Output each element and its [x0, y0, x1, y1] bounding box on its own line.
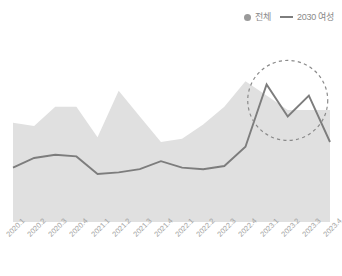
- chart-container: 전체 2030 여성 2020.12020.22020.32020.42021.…: [0, 0, 342, 276]
- x-axis-labels: 2020.12020.22020.32020.42021.12021.22021…: [0, 225, 342, 276]
- area-series-total: [13, 81, 330, 222]
